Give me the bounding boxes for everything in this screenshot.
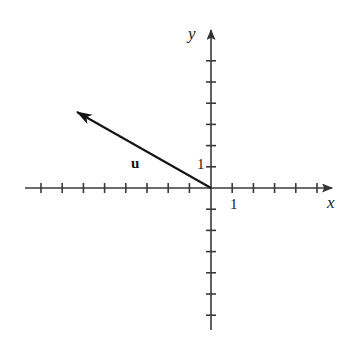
coordinate-plane-svg xyxy=(0,0,347,345)
y-axis-label: y xyxy=(188,25,196,42)
y-axis-unit-tick-label: 1 xyxy=(197,157,205,172)
vector-u-arrow xyxy=(77,112,211,188)
vector-u-label: u xyxy=(131,156,139,171)
x-axis-label: x xyxy=(327,194,335,211)
vector-diagram-figure: x y 1 1 u xyxy=(0,0,347,345)
x-axis-unit-tick-label: 1 xyxy=(230,197,238,212)
